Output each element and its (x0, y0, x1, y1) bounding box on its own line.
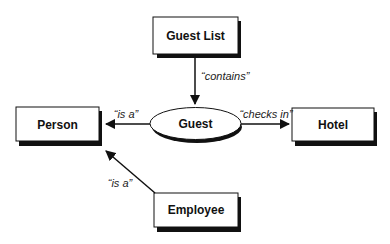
node-hotel: Hotel (292, 108, 377, 146)
edge-label: “contains” (201, 70, 251, 82)
edge-guest-is-a: “is a” (106, 108, 150, 124)
node-employee: Employee (154, 193, 241, 232)
node-guest-list: Guest List (153, 17, 241, 58)
diagram-canvas: Guest List “contains” Guest Person “is a… (0, 0, 390, 244)
edge-checks-in: “checks in” (239, 108, 294, 124)
node-label: Employee (168, 203, 225, 217)
edge-employee-is-a: “is a” (106, 151, 155, 193)
edge-label: “checks in” (239, 108, 294, 120)
node-label: Hotel (318, 118, 348, 132)
edge-label: “is a” (108, 177, 134, 189)
node-label: Guest (178, 117, 212, 131)
node-label: Guest List (166, 29, 225, 43)
edge-label: “is a” (114, 108, 140, 120)
node-person: Person (16, 107, 102, 146)
node-guest: Guest (150, 108, 242, 144)
edge-contains: “contains” (195, 58, 251, 104)
node-label: Person (37, 118, 78, 132)
